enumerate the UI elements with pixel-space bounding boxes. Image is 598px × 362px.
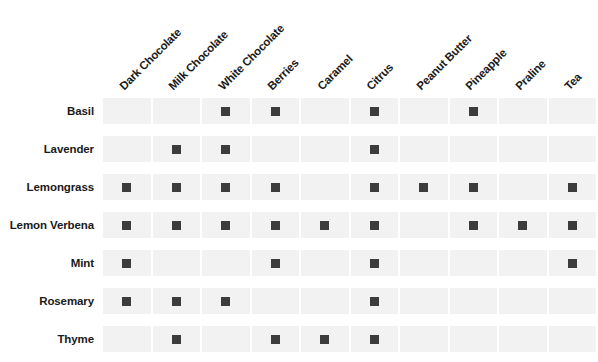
pairing-marker	[370, 145, 379, 154]
matrix-cell[interactable]	[301, 212, 349, 238]
matrix-cell[interactable]	[499, 136, 547, 162]
matrix-row: Lavender	[0, 130, 598, 168]
matrix-cell[interactable]	[351, 98, 399, 124]
pairing-marker	[469, 183, 478, 192]
matrix-cell[interactable]	[252, 326, 300, 352]
matrix-cell[interactable]	[499, 250, 547, 276]
matrix-cell[interactable]	[450, 288, 498, 314]
pairing-marker	[172, 297, 181, 306]
pairing-marker	[221, 145, 230, 154]
pairing-marker	[172, 183, 181, 192]
matrix-cell[interactable]	[400, 288, 448, 314]
matrix-cell[interactable]	[153, 174, 201, 200]
column-header-caramel: Caramel	[316, 53, 355, 92]
pairing-marker	[370, 259, 379, 268]
pairing-marker	[172, 335, 181, 344]
column-header-tea: Tea	[563, 71, 584, 92]
matrix-cell[interactable]	[549, 250, 597, 276]
pairing-marker	[271, 335, 280, 344]
matrix-cell[interactable]	[549, 326, 597, 352]
matrix-cell[interactable]	[450, 174, 498, 200]
matrix-cell[interactable]	[103, 250, 151, 276]
matrix-cell[interactable]	[301, 250, 349, 276]
matrix-cell[interactable]	[103, 98, 151, 124]
matrix-cell[interactable]	[202, 250, 250, 276]
row-cells	[103, 92, 598, 130]
pairing-marker	[320, 221, 329, 230]
matrix-cell[interactable]	[400, 250, 448, 276]
matrix-cell[interactable]	[103, 326, 151, 352]
matrix-cell[interactable]	[499, 174, 547, 200]
matrix-cell[interactable]	[202, 98, 250, 124]
pairing-marker	[122, 259, 131, 268]
matrix-cell[interactable]	[202, 326, 250, 352]
matrix-cell[interactable]	[202, 136, 250, 162]
matrix-cell[interactable]	[252, 174, 300, 200]
matrix-cell[interactable]	[549, 136, 597, 162]
matrix-cell[interactable]	[153, 250, 201, 276]
matrix-cell[interactable]	[202, 212, 250, 238]
matrix-cell[interactable]	[153, 288, 201, 314]
matrix-cell[interactable]	[351, 174, 399, 200]
matrix-cell[interactable]	[351, 136, 399, 162]
matrix-cell[interactable]	[549, 288, 597, 314]
pairing-matrix-chart: Dark ChocolateMilk ChocolateWhite Chocol…	[0, 0, 598, 362]
pairing-marker	[221, 297, 230, 306]
matrix-cell[interactable]	[400, 212, 448, 238]
row-cells	[103, 282, 598, 320]
matrix-cell[interactable]	[549, 174, 597, 200]
matrix-cell[interactable]	[450, 250, 498, 276]
matrix-cell[interactable]	[499, 98, 547, 124]
pairing-marker	[221, 221, 230, 230]
matrix-cell[interactable]	[400, 174, 448, 200]
pairing-marker	[568, 259, 577, 268]
matrix-cell[interactable]	[499, 288, 547, 314]
matrix-cell[interactable]	[103, 174, 151, 200]
matrix-cell[interactable]	[450, 326, 498, 352]
pairing-marker	[469, 221, 478, 230]
pairing-marker	[221, 183, 230, 192]
matrix-cell[interactable]	[450, 212, 498, 238]
matrix-cell[interactable]	[301, 326, 349, 352]
matrix-cell[interactable]	[153, 326, 201, 352]
matrix-cell[interactable]	[549, 98, 597, 124]
pairing-marker	[271, 183, 280, 192]
matrix-cell[interactable]	[252, 136, 300, 162]
matrix-cell[interactable]	[103, 288, 151, 314]
matrix-cell[interactable]	[351, 250, 399, 276]
matrix-cell[interactable]	[400, 326, 448, 352]
matrix-cell[interactable]	[153, 136, 201, 162]
column-header-berries: Berries	[266, 57, 301, 92]
matrix-cell[interactable]	[301, 98, 349, 124]
matrix-cell[interactable]	[153, 98, 201, 124]
matrix-cell[interactable]	[351, 212, 399, 238]
matrix-cell[interactable]	[450, 136, 498, 162]
matrix-cell[interactable]	[252, 98, 300, 124]
matrix-row: Rosemary	[0, 282, 598, 320]
pairing-marker	[271, 221, 280, 230]
matrix-cell[interactable]	[202, 174, 250, 200]
matrix-cell[interactable]	[351, 288, 399, 314]
matrix-cell[interactable]	[499, 212, 547, 238]
matrix-cell[interactable]	[301, 136, 349, 162]
row-cells	[103, 320, 598, 358]
matrix-cell[interactable]	[549, 212, 597, 238]
matrix-cell[interactable]	[252, 288, 300, 314]
matrix-cell[interactable]	[252, 250, 300, 276]
matrix-cell[interactable]	[202, 288, 250, 314]
matrix-cell[interactable]	[103, 212, 151, 238]
matrix-cell[interactable]	[351, 326, 399, 352]
matrix-cell[interactable]	[301, 288, 349, 314]
matrix-cell[interactable]	[450, 98, 498, 124]
matrix-cell[interactable]	[499, 326, 547, 352]
matrix-cell[interactable]	[252, 212, 300, 238]
matrix-cell[interactable]	[301, 174, 349, 200]
row-cells	[103, 206, 598, 244]
matrix-cell[interactable]	[400, 136, 448, 162]
row-label-mint: Mint	[0, 257, 103, 269]
matrix-cell[interactable]	[400, 98, 448, 124]
matrix-cell[interactable]	[153, 212, 201, 238]
pairing-marker	[370, 107, 379, 116]
column-header-band: Dark ChocolateMilk ChocolateWhite Chocol…	[0, 0, 598, 92]
matrix-cell[interactable]	[103, 136, 151, 162]
